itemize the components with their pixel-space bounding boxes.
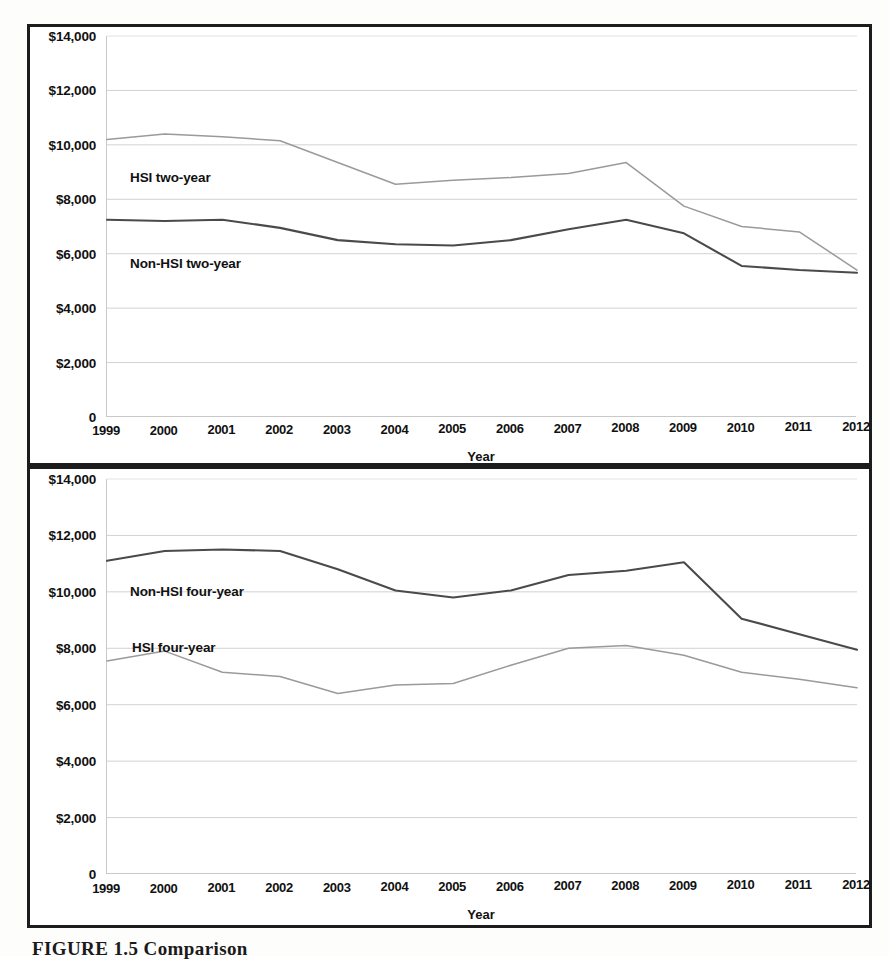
x-tick-label: 2000: [150, 423, 178, 438]
x-tick-label: 2010: [727, 420, 755, 435]
plot-area-top: [106, 36, 856, 417]
x-tick-label: 2007: [554, 421, 582, 436]
series-label-hsi-two-year: HSI two-year: [130, 170, 211, 185]
x-tick-label: 2002: [265, 422, 293, 437]
x-tick-label: 2004: [381, 422, 409, 437]
series-label-non-hsi-four-year: Non-HSI four-year: [130, 584, 244, 599]
x-tick-label: 2012: [842, 419, 870, 434]
x-tick-label: 2006: [496, 421, 524, 436]
x-axis-title-bottom: Year: [467, 907, 494, 922]
figure-stack: $14,000$12,000$10,000$8,000$6,000$4,000$…: [27, 24, 872, 929]
y-tick-label: $2,000: [56, 355, 96, 370]
x-tick-label: 1999: [92, 881, 120, 896]
x-tick-label: 2003: [323, 422, 351, 437]
x-tick-label: 2007: [554, 878, 582, 893]
x-tick-label: 2003: [323, 880, 351, 895]
y-tick-label: $4,000: [56, 301, 96, 316]
x-tick-label: 1999: [92, 423, 120, 438]
y-tick-label: $4,000: [56, 754, 96, 769]
series-line: [107, 645, 857, 693]
x-tick-label: 2011: [785, 419, 812, 434]
y-tick-label: 0: [89, 867, 96, 882]
y-tick-label: $8,000: [56, 641, 96, 656]
y-tick-label: $14,000: [49, 472, 96, 487]
y-tick-label: $10,000: [49, 137, 96, 152]
y-tick-label: $6,000: [56, 697, 96, 712]
y-axis-labels-bottom: $14,000$12,000$10,000$8,000$6,000$4,000$…: [30, 469, 102, 925]
x-tick-label: 2012: [842, 877, 870, 892]
x-tick-label: 2009: [669, 420, 697, 435]
x-tick-label: 2009: [669, 878, 697, 893]
x-tick-label: 2001: [208, 880, 236, 895]
x-tick-label: 2006: [496, 879, 524, 894]
y-tick-label: $6,000: [56, 246, 96, 261]
series-line: [107, 134, 857, 270]
x-tick-label: 2008: [611, 878, 639, 893]
series-line: [107, 550, 857, 650]
y-tick-label: $12,000: [49, 83, 96, 98]
x-tick-label: 2011: [785, 877, 812, 892]
plot-wrap-bottom: $14,000$12,000$10,000$8,000$6,000$4,000$…: [30, 469, 869, 925]
y-tick-label: $12,000: [49, 528, 96, 543]
y-tick-label: $8,000: [56, 192, 96, 207]
y-tick-label: $2,000: [56, 810, 96, 825]
x-tick-label: 2002: [265, 880, 293, 895]
x-tick-label: 2004: [381, 879, 409, 894]
series-label-hsi-four-year: HSI four-year: [132, 640, 215, 655]
plot-area-bottom: [106, 479, 856, 874]
y-tick-label: $14,000: [49, 29, 96, 44]
plot-wrap-top: $14,000$12,000$10,000$8,000$6,000$4,000$…: [30, 27, 869, 463]
line-chart-top: [107, 36, 857, 417]
x-tick-label: 2000: [150, 881, 178, 896]
chart-panel-four-year: $14,000$12,000$10,000$8,000$6,000$4,000$…: [27, 466, 872, 928]
x-axis-title-top: Year: [467, 449, 494, 464]
y-axis-labels-top: $14,000$12,000$10,000$8,000$6,000$4,000$…: [30, 27, 102, 463]
figure-caption: FIGURE 1.5 Comparison: [32, 938, 248, 960]
series-label-non-hsi-two-year: Non-HSI two-year: [130, 256, 241, 271]
chart-panel-two-year: $14,000$12,000$10,000$8,000$6,000$4,000$…: [27, 24, 872, 466]
y-tick-label: $10,000: [49, 584, 96, 599]
x-tick-label: 2010: [727, 877, 755, 892]
x-tick-label: 2001: [208, 422, 236, 437]
x-tick-label: 2005: [438, 879, 466, 894]
line-chart-bottom: [107, 479, 857, 874]
x-tick-label: 2008: [611, 420, 639, 435]
x-tick-label: 2005: [438, 421, 466, 436]
